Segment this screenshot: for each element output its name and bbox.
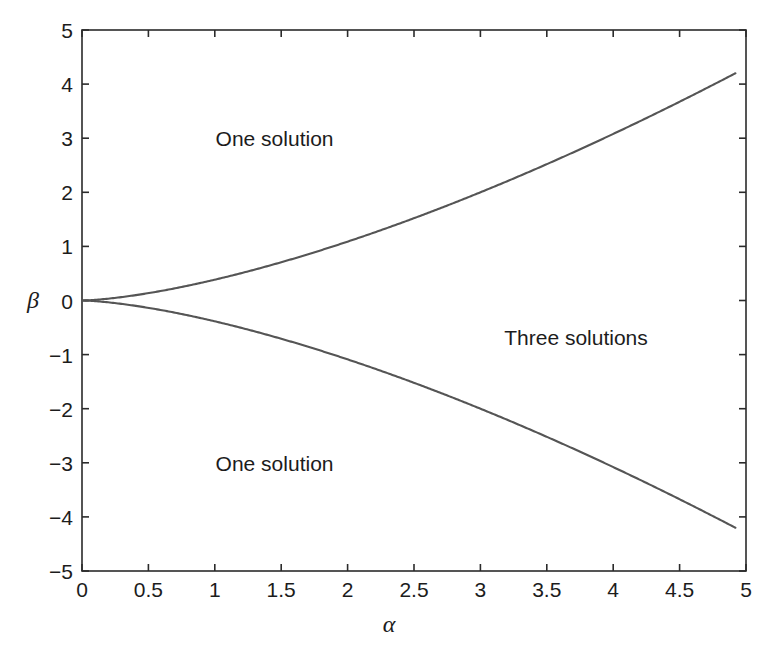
axis-ticks (82, 30, 746, 571)
x-tick-label: 2.5 (399, 579, 428, 600)
region-label: One solution (216, 452, 334, 473)
y-tick-label: 2 (61, 182, 73, 203)
curve-upper-branch (82, 73, 735, 300)
y-tick-label: 0 (61, 290, 73, 311)
x-tick-label: 4.5 (665, 579, 694, 600)
y-tick-label: −3 (49, 452, 73, 473)
x-tick-label: 2 (342, 579, 354, 600)
y-tick-label: 1 (61, 236, 73, 257)
y-tick-label: −1 (49, 344, 73, 365)
x-tick-label: 4 (607, 579, 619, 600)
x-tick-label: 1 (209, 579, 221, 600)
x-tick-label: 3.5 (532, 579, 561, 600)
y-axis-title: β (27, 288, 39, 312)
y-tick-label: −2 (49, 398, 73, 419)
x-tick-label: 1.5 (267, 579, 296, 600)
plot-canvas (0, 0, 778, 659)
x-tick-label: 5 (740, 579, 752, 600)
x-tick-label: 0 (76, 579, 88, 600)
y-tick-label: 5 (61, 20, 73, 41)
y-tick-label: 4 (61, 74, 73, 95)
y-tick-label: −5 (49, 561, 73, 582)
x-tick-label: 3 (475, 579, 487, 600)
x-tick-label: 0.5 (134, 579, 163, 600)
y-tick-label: 3 (61, 128, 73, 149)
chart-figure: 00.511.522.533.544.55 543210−1−2−3−4−5 O… (0, 0, 778, 659)
region-label: Three solutions (504, 326, 648, 347)
bifurcation-curves (82, 73, 735, 527)
axes-frame (82, 30, 746, 571)
region-label: One solution (216, 128, 334, 149)
x-axis-title: α (383, 612, 396, 636)
y-tick-label: −4 (49, 506, 73, 527)
